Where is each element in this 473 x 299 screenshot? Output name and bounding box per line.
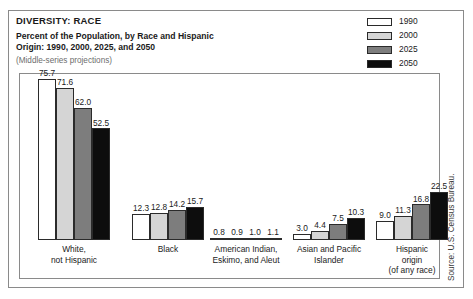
figure-note: (Middle-series projections) <box>16 56 112 65</box>
bar-1990[interactable]: 9.0 <box>376 78 394 240</box>
bar-2000[interactable]: 4.4 <box>311 78 329 240</box>
bar-2050[interactable]: 15.7 <box>186 78 204 240</box>
bar-value-label: 10.3 <box>348 208 364 216</box>
bar-2050[interactable]: 1.1 <box>264 78 282 240</box>
category-label-line: not Hispanic <box>51 255 97 266</box>
category-label-line: Islander <box>297 255 361 266</box>
legend-item-1990[interactable]: 1990 <box>367 15 442 28</box>
bar-2050[interactable]: 52.5 <box>92 78 110 240</box>
legend-item-2025[interactable]: 2025 <box>367 43 442 56</box>
bar-rect-1990 <box>293 234 311 240</box>
bar-group: 3.04.47.510.3Asian and PacificIslander <box>293 78 365 240</box>
bar-value-label: 12.8 <box>151 203 167 211</box>
category-label: Asian and PacificIslander <box>297 244 361 265</box>
category-label-line: (of any race) <box>388 265 435 276</box>
bar-rect-2025 <box>168 210 186 240</box>
bar-group: 12.312.814.215.7Black <box>132 78 204 240</box>
category-label-line: White, <box>51 244 97 255</box>
legend-swatch-2050 <box>367 60 392 68</box>
bar-2050[interactable]: 10.3 <box>347 78 365 240</box>
legend-label-1990: 1990 <box>399 17 418 25</box>
bar-value-label: 9.0 <box>379 211 391 219</box>
bar-rect-2050 <box>264 238 282 240</box>
bar-rect-2000 <box>56 88 74 240</box>
bar-rect-1990 <box>132 214 150 240</box>
legend-label-2025: 2025 <box>399 45 418 53</box>
bar-value-label: 62.0 <box>75 98 91 106</box>
category-label: Hispanicorigin(of any race) <box>388 244 435 276</box>
bar-value-label: 52.5 <box>93 119 109 127</box>
bar-2025[interactable]: 16.8 <box>412 78 430 240</box>
legend-label-2000: 2000 <box>399 31 418 39</box>
category-label: Black <box>158 244 178 255</box>
bar-1990[interactable]: 3.0 <box>293 78 311 240</box>
bar-rect-2025 <box>329 224 347 240</box>
bar-group: 0.80.91.01.1American Indian,Eskimo, and … <box>210 78 282 240</box>
bar-rect-2000 <box>394 216 412 240</box>
bar-value-label: 0.9 <box>231 228 243 236</box>
bar-2025[interactable]: 14.2 <box>168 78 186 240</box>
bar-group-bars: 12.312.814.215.7 <box>132 78 204 240</box>
bar-rect-2000 <box>311 231 329 240</box>
bar-rect-2000 <box>228 238 246 240</box>
bar-2025[interactable]: 62.0 <box>74 78 92 240</box>
bar-value-label: 12.3 <box>133 204 149 212</box>
category-label-line: Eskimo, and Aleut <box>212 255 279 266</box>
bar-rect-1990 <box>210 238 228 240</box>
category-label-line: origin <box>388 255 435 266</box>
legend-swatch-1990 <box>367 18 392 26</box>
page-title: DIVERSITY: RACE <box>16 15 101 26</box>
bar-value-label: 75.7 <box>39 69 55 77</box>
bar-rect-2050 <box>347 218 365 240</box>
bar-value-label: 11.3 <box>395 206 411 214</box>
bar-value-label: 7.5 <box>332 214 344 222</box>
legend-swatch-2000 <box>367 32 392 40</box>
bar-value-label: 15.7 <box>187 197 203 205</box>
bar-value-label: 71.6 <box>57 78 73 86</box>
bar-group-bars: 3.04.47.510.3 <box>293 78 365 240</box>
bar-2000[interactable]: 12.8 <box>150 78 168 240</box>
bar-2000[interactable]: 71.6 <box>56 78 74 240</box>
bar-group-bars: 75.771.662.052.5 <box>38 78 110 240</box>
bar-1990[interactable]: 0.8 <box>210 78 228 240</box>
bar-value-label: 1.1 <box>267 228 279 236</box>
bar-value-label: 3.0 <box>296 224 308 232</box>
bar-1990[interactable]: 75.7 <box>38 78 56 240</box>
bar-value-label: 16.8 <box>413 195 429 203</box>
bar-rect-2025 <box>74 108 92 240</box>
bar-rect-2000 <box>150 213 168 240</box>
category-label-line: American Indian, <box>212 244 279 255</box>
bar-group-bars: 9.011.316.822.5 <box>376 78 448 240</box>
chart-legend: 1990200020252050 <box>367 15 442 71</box>
bar-group: 75.771.662.052.5White,not Hispanic <box>38 78 110 240</box>
legend-item-2050[interactable]: 2050 <box>367 57 442 70</box>
bar-group-bars: 0.80.91.01.1 <box>210 78 282 240</box>
legend-swatch-2025 <box>367 46 392 54</box>
bar-value-label: 4.4 <box>314 221 326 229</box>
bar-value-label: 14.2 <box>169 200 185 208</box>
bar-rect-2050 <box>92 128 110 240</box>
category-label: American Indian,Eskimo, and Aleut <box>212 244 279 265</box>
bar-group: 9.011.316.822.5Hispanicorigin(of any rac… <box>376 78 448 240</box>
figure-frame: DIVERSITY: RACE Percent of the Populatio… <box>8 10 464 288</box>
bar-2025[interactable]: 7.5 <box>329 78 347 240</box>
legend-item-2000[interactable]: 2000 <box>367 29 442 42</box>
category-label-line: Black <box>158 244 178 255</box>
bar-2000[interactable]: 11.3 <box>394 78 412 240</box>
bar-value-label: 22.5 <box>431 182 447 190</box>
bar-rect-1990 <box>38 79 56 240</box>
bar-value-label: 1.0 <box>249 228 261 236</box>
bar-rect-1990 <box>376 221 394 240</box>
category-label-line: Hispanic <box>388 244 435 255</box>
figure-subtitle-line-2: Origin: 1990, 2000, 2025, and 2050 <box>16 42 155 52</box>
bar-2025[interactable]: 1.0 <box>246 78 264 240</box>
bar-rect-2050 <box>186 207 204 240</box>
source-attribution: Source: U.S. Census Bureau. <box>446 133 460 283</box>
source-text: Source: U.S. Census Bureau. <box>447 174 456 281</box>
legend-label-2050: 2050 <box>399 59 418 67</box>
category-label-line: Asian and Pacific <box>297 244 361 255</box>
plot-inner: 75.771.662.052.5White,not Hispanic12.312… <box>20 74 439 278</box>
bar-rect-2025 <box>412 204 430 240</box>
bar-2000[interactable]: 0.9 <box>228 78 246 240</box>
bar-1990[interactable]: 12.3 <box>132 78 150 240</box>
